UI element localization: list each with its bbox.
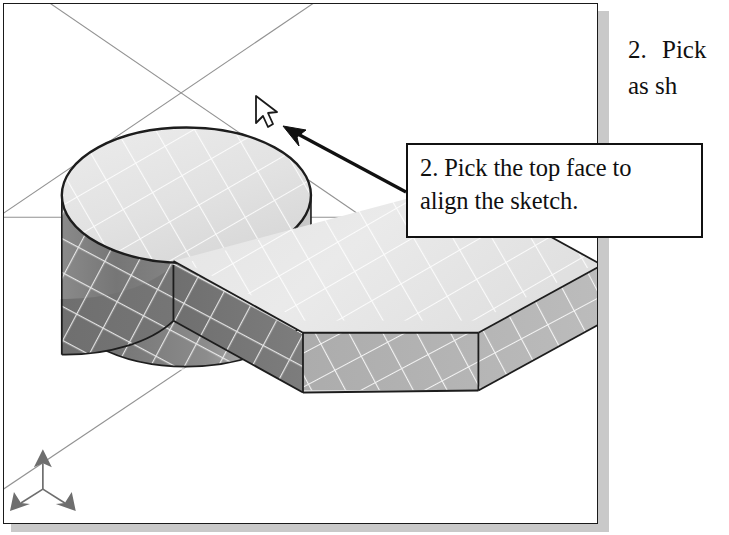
cad-viewport[interactable] bbox=[3, 3, 598, 524]
cad-tutorial-figure: 2. Pick the top face to align the sketch… bbox=[0, 0, 729, 535]
side-instruction-line-1: Pick bbox=[662, 32, 706, 68]
coordinate-axis-triad-icon bbox=[10, 449, 76, 511]
callout-line-2: align the sketch. bbox=[420, 185, 701, 218]
callout-line-1: 2. Pick the top face to bbox=[420, 152, 701, 185]
callout-balloon: 2. Pick the top face to align the sketch… bbox=[406, 143, 703, 238]
cad-model-canvas bbox=[4, 4, 597, 523]
side-instruction-number: 2. bbox=[628, 32, 647, 68]
side-instruction-line-2: as sh bbox=[628, 68, 677, 104]
